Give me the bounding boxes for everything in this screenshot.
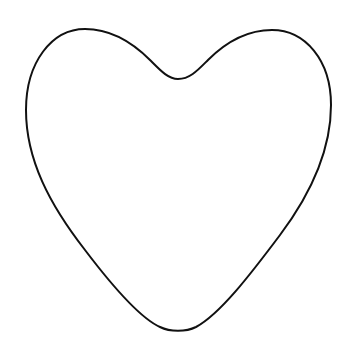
heart-drawing-canvas: heart outline (0, 0, 355, 355)
heart-outline-path (26, 29, 331, 331)
heart-outline-icon (0, 0, 355, 355)
